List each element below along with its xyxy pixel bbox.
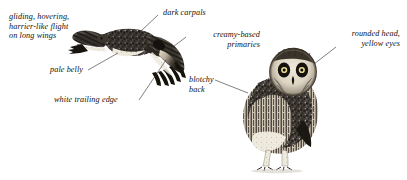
illustration-plate: gliding, hovering, harrier-like flight o… — [0, 0, 407, 180]
label-flight-style-line3: on long wings — [9, 31, 69, 41]
label-rounded-head-yellow-eyes: rounded head, yellow eyes — [288, 29, 400, 48]
label-blotchy-back: blotchy back — [189, 75, 214, 94]
label-blotchy-back-line1: blotchy — [189, 75, 214, 85]
label-creamy-based-primaries-line1: creamy-based — [150, 30, 260, 40]
label-white-trailing-edge: white trailing edge — [54, 95, 118, 105]
short-eared-owl-perched — [243, 48, 318, 173]
label-creamy-based-primaries-line2: primaries — [150, 40, 260, 50]
label-rounded-head-line1: rounded head, — [288, 29, 400, 39]
label-flight-style-line2: harrier-like flight — [9, 22, 69, 32]
label-dark-carpals: dark carpals — [163, 8, 206, 18]
label-pale-belly: pale belly — [50, 65, 83, 75]
label-rounded-head-line2: yellow eyes — [288, 39, 400, 49]
label-flight-style-line1: gliding, hovering, — [9, 12, 69, 22]
label-creamy-based-primaries: creamy-based primaries — [150, 30, 260, 49]
label-blotchy-back-line2: back — [189, 85, 214, 95]
label-flight-style: gliding, hovering, harrier-like flight o… — [9, 12, 69, 41]
